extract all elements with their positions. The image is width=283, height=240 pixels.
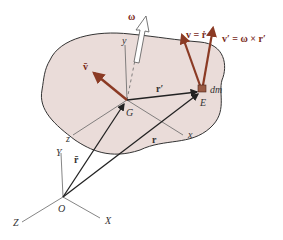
v-prime-label: v′ = ω × r′: [222, 33, 266, 44]
Y-label: Y: [56, 147, 63, 158]
x-local-label: x: [187, 129, 193, 140]
r-bar-label: r̄: [74, 154, 79, 165]
v-label: v = ṙ: [186, 29, 207, 40]
y-local-label: y: [121, 35, 127, 46]
z-local-label: z: [65, 133, 70, 144]
dm-label: dm: [210, 84, 222, 95]
omega-label: ω: [128, 11, 135, 22]
mass-element-dm: [198, 85, 206, 92]
v-bar-label: v̄: [83, 61, 88, 72]
r-label: r: [152, 134, 157, 145]
O-label: O: [58, 203, 65, 214]
Z-label: Z: [13, 217, 19, 228]
r-prime-label: r′: [156, 83, 163, 94]
rigid-body-diagram: ω v̄ v = ṙ v′ = ω × r′ dm E G r′ r r̄ y …: [0, 0, 283, 240]
E-label: E: [199, 97, 206, 108]
X-label: X: [104, 215, 112, 226]
G-label: G: [126, 107, 133, 118]
